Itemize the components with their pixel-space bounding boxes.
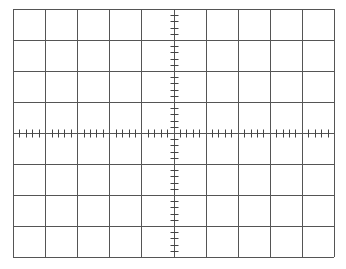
oscilloscope-graticule (0, 0, 346, 269)
